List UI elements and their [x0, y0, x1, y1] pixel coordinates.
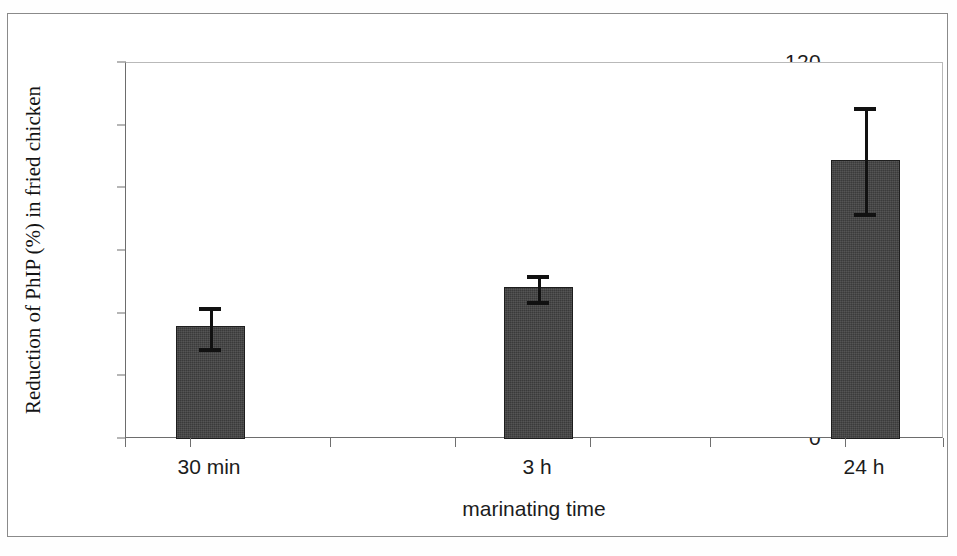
x-axis-title: marinating time — [125, 497, 943, 521]
error-bar-cap-lower — [199, 348, 221, 352]
error-bar-cap-upper — [199, 307, 221, 311]
x-axis-tick-mark — [455, 438, 456, 447]
x-axis-tick-mark — [190, 438, 191, 447]
error-bar-cap-lower — [527, 301, 549, 305]
error-bar-line — [210, 307, 213, 348]
plot-area — [125, 62, 943, 438]
bar — [504, 287, 573, 439]
x-axis-tick-mark — [845, 438, 846, 447]
x-axis-tick-label: 24 h — [844, 455, 885, 479]
error-bar-cap-upper — [527, 275, 549, 279]
x-axis-tick-mark — [710, 438, 711, 447]
x-axis-tick-label: 3 h — [522, 455, 551, 479]
x-axis-tick-mark — [590, 438, 591, 447]
error-bar-cap-lower — [854, 213, 876, 217]
x-axis-tick-mark — [943, 438, 944, 447]
y-axis-title: Reduction of PhIP (%) in fried chicken — [18, 62, 48, 438]
error-bar-cap-upper — [854, 107, 876, 111]
x-axis-tick-label: 30 min — [177, 455, 240, 479]
x-axis-tick-mark — [330, 438, 331, 447]
x-axis-tick-mark — [125, 438, 126, 447]
error-bar-line — [865, 107, 868, 214]
figure-container: Reduction of PhIP (%) in fried chicken 0… — [0, 0, 957, 556]
